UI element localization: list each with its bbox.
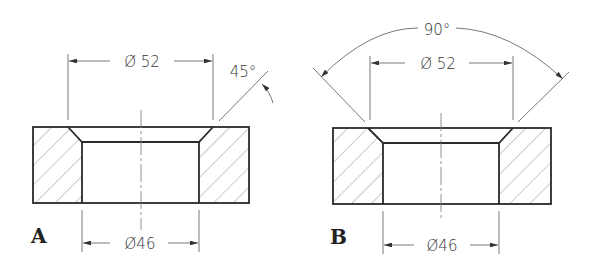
- section-hatch-left: [33, 127, 82, 203]
- section-hatch-right: [499, 128, 551, 204]
- section-hatch-left: [333, 128, 383, 204]
- dimension-top-label: Ø 52: [420, 55, 456, 73]
- panel-label: B: [330, 225, 347, 249]
- technical-drawing: Ø 52 45° Ø46 A: [0, 0, 595, 266]
- dimension-top-label: Ø 52: [124, 53, 160, 71]
- panel-label: A: [30, 224, 47, 248]
- section-hatch-right: [199, 127, 249, 203]
- angle-label: 45°: [230, 63, 257, 81]
- dimension-bottom-label: Ø46: [125, 235, 156, 253]
- dimension-bottom-label: Ø46: [427, 237, 458, 255]
- panel-a: Ø 52 45° Ø46 A: [30, 53, 273, 253]
- angle-dimension: [313, 28, 569, 122]
- panel-b: 90° Ø 52 Ø46 B: [313, 21, 569, 255]
- angle-label: 90°: [424, 21, 451, 39]
